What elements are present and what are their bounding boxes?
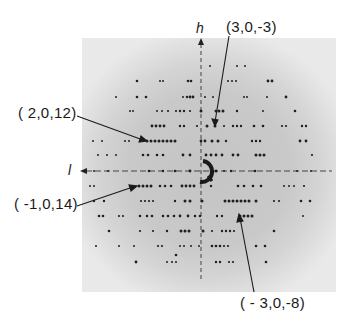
reflection-spot	[211, 140, 214, 143]
reflection-spot	[294, 110, 297, 113]
reflection-spot	[201, 200, 204, 203]
reflection-spot	[211, 245, 214, 248]
reflection-spot	[231, 80, 233, 82]
leader-lines	[77, 36, 254, 292]
reflection-spot	[146, 215, 149, 218]
reflection-spot	[115, 154, 117, 156]
reflection-spot	[300, 200, 303, 203]
reflection-spot	[97, 154, 99, 156]
reflection-spot	[251, 140, 253, 142]
reflection-spot	[102, 215, 105, 218]
reflection-spot	[215, 170, 218, 173]
reflection-spot	[133, 245, 135, 247]
reflection-spot	[170, 185, 173, 188]
reflection-spot	[138, 185, 141, 188]
reflection-spot	[92, 140, 94, 142]
reflection-spot	[174, 140, 177, 143]
reflection-spot	[310, 170, 312, 172]
reflection-spot	[171, 261, 173, 263]
reflection-spot	[232, 125, 234, 127]
reflection-spot	[266, 96, 268, 98]
reflection-spot	[167, 110, 169, 112]
reflection-spot	[229, 230, 231, 232]
reflection-spot	[216, 215, 218, 217]
reflection-spot	[164, 185, 167, 188]
reflection-spot	[158, 140, 161, 143]
reflection-spot	[285, 96, 288, 99]
reflection-spot	[219, 261, 221, 263]
reflection-spot	[152, 230, 154, 232]
reflection-spot	[189, 110, 191, 112]
reflection-spot	[145, 96, 148, 99]
reflection-spot	[283, 185, 285, 187]
reflection-spot	[159, 125, 162, 128]
reflection-spot	[174, 200, 176, 202]
reflection-spot	[237, 185, 240, 188]
reflection-spot	[161, 245, 163, 247]
reflection-spot	[259, 154, 262, 157]
reflection-spot	[175, 261, 177, 263]
reflection-spot	[129, 110, 131, 112]
reflection-spot	[190, 80, 193, 83]
reflection-spot	[182, 154, 185, 157]
reflection-spot	[285, 125, 287, 127]
reflection-spot	[142, 154, 145, 157]
reflection-spot	[140, 200, 142, 202]
reflection-spot	[150, 185, 153, 188]
reflection-spot	[236, 125, 238, 127]
reflection-spot	[192, 96, 195, 99]
reflection-spot	[244, 200, 247, 203]
reflection-spot	[182, 96, 184, 98]
reflection-spot	[301, 125, 303, 127]
reflection-spot	[148, 170, 151, 173]
reflection-spot	[273, 230, 276, 233]
reflection-spot	[299, 140, 302, 143]
reflection-spot	[146, 185, 149, 188]
reflection-spot	[135, 261, 138, 264]
reflection-spot	[225, 230, 227, 232]
reflection-spot	[144, 200, 146, 202]
reflection-spot	[184, 230, 187, 233]
reflection-spot	[233, 230, 235, 232]
reflection-spot	[273, 200, 275, 202]
reflection-spot	[246, 96, 248, 98]
reflection-spot	[159, 185, 162, 188]
reflection-spot	[267, 80, 270, 83]
h-axis-label: h	[196, 20, 204, 36]
reflection-spot	[302, 215, 304, 217]
reflection-spot	[217, 140, 220, 143]
reflection-spot	[189, 200, 192, 203]
reflection-spot	[219, 245, 222, 248]
h-axis-arrow-icon	[198, 38, 204, 45]
reflection-spot	[212, 96, 214, 98]
reflection-spot	[237, 154, 240, 157]
reflection-spot	[223, 245, 225, 247]
reflection-spot	[252, 185, 255, 188]
reflection-spot	[167, 215, 170, 218]
beam-stop	[200, 161, 212, 182]
reflection-spot	[157, 245, 159, 247]
reflection-spot	[235, 80, 237, 82]
reflection-spot	[180, 230, 183, 233]
reflection-spot	[189, 96, 192, 99]
reflection-spot	[101, 140, 103, 142]
reflection-spot	[243, 215, 246, 218]
reflection-spot	[215, 245, 218, 248]
reflection-spot	[278, 200, 280, 202]
reflection-spot	[118, 245, 120, 247]
reflection-spot	[209, 65, 211, 67]
reflection-spot	[255, 154, 258, 157]
reflection-spot	[187, 80, 190, 83]
reflection-spot	[225, 140, 227, 142]
reflection-spot	[174, 170, 177, 173]
l-axis-arrow-icon	[80, 168, 87, 174]
reflection-spot	[293, 185, 295, 187]
reflection-spot	[142, 185, 145, 188]
reflection-spot	[173, 215, 176, 218]
reflection-spot	[118, 215, 120, 217]
reflection-spot	[200, 140, 203, 143]
reflection-spot	[194, 215, 197, 218]
reflection-spot	[232, 200, 235, 203]
reflection-spot	[205, 154, 208, 157]
reflection-spot	[183, 125, 185, 127]
